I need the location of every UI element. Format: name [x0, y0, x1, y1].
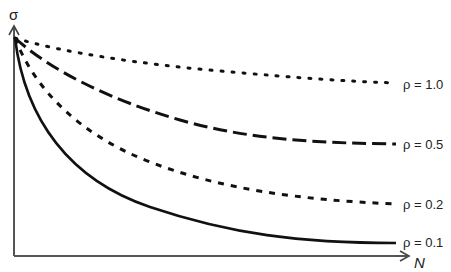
- x-axis-label: N: [414, 254, 425, 271]
- label-rho-0-2: ρ = 0.2: [403, 197, 443, 212]
- label-rho-0-5: ρ = 0.5: [403, 137, 443, 152]
- label-rho-0-1: ρ = 0.1: [403, 235, 443, 250]
- curve-rho-0-2: [15, 38, 396, 204]
- x-axis: [14, 251, 409, 261]
- y-axis-label: σ: [9, 6, 19, 23]
- curve-rho-0-1: [15, 38, 396, 243]
- diagram-canvas: σ N ρ = 1.0 ρ = 0.5 ρ = 0.2 ρ = 0.1: [0, 0, 451, 272]
- label-rho-1-0: ρ = 1.0: [403, 77, 443, 92]
- curve-rho-0-5: [15, 38, 396, 144]
